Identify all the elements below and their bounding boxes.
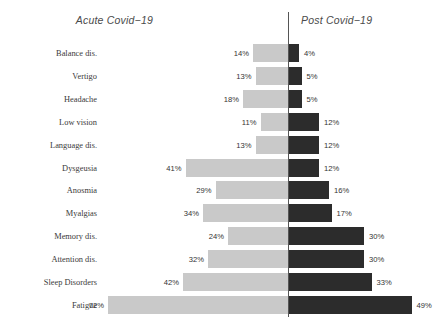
value-label-post: 12%	[324, 163, 339, 172]
bar-post	[289, 273, 372, 291]
value-label-post: 4%	[304, 49, 315, 58]
chart-row: Headache18%5%	[0, 90, 448, 108]
chart-row: Language dis.13%12%	[0, 136, 448, 154]
row-category-label: Low vision	[59, 117, 97, 126]
value-label-acute: 13%	[236, 140, 251, 149]
value-label-acute: 29%	[196, 186, 211, 195]
value-label-post: 33%	[377, 278, 392, 287]
value-label-post: 12%	[324, 140, 339, 149]
value-label-acute: 32%	[189, 255, 204, 264]
value-label-acute: 42%	[164, 278, 179, 287]
column-header-post: Post Covid−19	[301, 14, 372, 26]
bar-acute	[228, 227, 288, 245]
value-label-post: 12%	[324, 117, 339, 126]
bar-post	[289, 250, 364, 268]
bar-post	[289, 181, 329, 199]
row-category-label: Dysgeusia	[62, 163, 97, 172]
bar-post	[289, 296, 412, 314]
bar-post	[289, 136, 319, 154]
value-label-acute: 72%	[89, 300, 104, 309]
column-header-acute: Acute Covid−19	[76, 14, 153, 26]
bar-acute	[256, 67, 289, 85]
row-category-label: Vertigo	[72, 71, 97, 80]
chart-row: Low vision11%12%	[0, 113, 448, 131]
chart-row: Vertigo13%5%	[0, 67, 448, 85]
row-category-label: Headache	[64, 94, 97, 103]
chart-row: Dysgeusia41%12%	[0, 159, 448, 177]
value-label-acute: 13%	[236, 71, 251, 80]
chart-row: Fatigue72%49%	[0, 296, 448, 314]
value-label-post: 5%	[307, 71, 318, 80]
value-label-acute: 14%	[234, 49, 249, 58]
bar-acute	[183, 273, 288, 291]
bar-acute	[216, 181, 289, 199]
bar-acute	[208, 250, 288, 268]
bar-post	[289, 90, 302, 108]
row-category-label: Myalgias	[66, 209, 97, 218]
row-category-label: Anosmia	[67, 186, 97, 195]
value-label-acute: 11%	[242, 117, 257, 126]
bar-post	[289, 44, 299, 62]
value-label-post: 30%	[369, 232, 384, 241]
bar-post	[289, 67, 302, 85]
chart-row: Balance dis.14%4%	[0, 44, 448, 62]
chart-row: Attention dis.32%30%	[0, 250, 448, 268]
bar-acute	[261, 113, 289, 131]
bar-acute	[108, 296, 288, 314]
bar-acute	[256, 136, 289, 154]
value-label-acute: 34%	[184, 209, 199, 218]
bar-acute	[203, 204, 288, 222]
chart-row: Sleep Disorders42%33%	[0, 273, 448, 291]
bar-acute	[243, 90, 288, 108]
row-category-label: Memory dis.	[54, 232, 97, 241]
bar-post	[289, 159, 319, 177]
value-label-acute: 24%	[209, 232, 224, 241]
chart-row: Myalgias34%17%	[0, 204, 448, 222]
chart-row: Anosmia29%16%	[0, 181, 448, 199]
value-label-post: 30%	[369, 255, 384, 264]
bar-post	[289, 113, 319, 131]
value-label-post: 49%	[417, 300, 432, 309]
row-category-label: Sleep Disorders	[44, 278, 97, 287]
value-label-acute: 41%	[166, 163, 181, 172]
row-category-label: Balance dis.	[56, 49, 97, 58]
chart-row: Memory dis.24%30%	[0, 227, 448, 245]
bar-acute	[186, 159, 289, 177]
row-category-label: Attention dis.	[51, 255, 97, 264]
butterfly-chart: Acute Covid−19 Post Covid−19 Balance dis…	[0, 0, 448, 319]
bar-post	[289, 227, 364, 245]
value-label-post: 5%	[307, 94, 318, 103]
value-label-post: 17%	[337, 209, 352, 218]
value-label-post: 16%	[334, 186, 349, 195]
row-category-label: Language dis.	[50, 140, 97, 149]
value-label-acute: 18%	[224, 94, 239, 103]
bar-acute	[253, 44, 288, 62]
bar-post	[289, 204, 332, 222]
